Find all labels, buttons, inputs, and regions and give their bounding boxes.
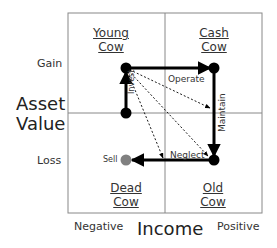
quadrant-old-cow: Old Cow [188,181,238,209]
node-young-start [121,108,132,119]
quadrant-dead-cow: Dead Cow [101,181,151,209]
node-cash-cow [209,63,220,74]
sell-label: Sell [103,156,117,164]
maintain-label: Maintain [218,93,227,132]
y-axis-gain-label: Gain [37,58,62,69]
y-axis-title-line1: Asset [16,95,65,113]
node-old-cow [209,155,220,166]
x-axis-title: Income [137,220,203,238]
x-axis-negative-label: Negative [74,221,123,232]
neglect-label: Neglect [170,151,205,160]
quadrant-young-cow: Young Cow [84,26,138,54]
y-axis-loss-label: Loss [37,155,61,166]
x-axis-positive-label: Positive [217,221,259,232]
operate-label: Operate [168,75,205,84]
quadrant-cash-cow: Cash Cow [187,26,241,54]
node-sell [121,155,132,166]
y-axis-title-line2: Value [16,115,65,133]
invest-label: Invest [128,70,136,94]
